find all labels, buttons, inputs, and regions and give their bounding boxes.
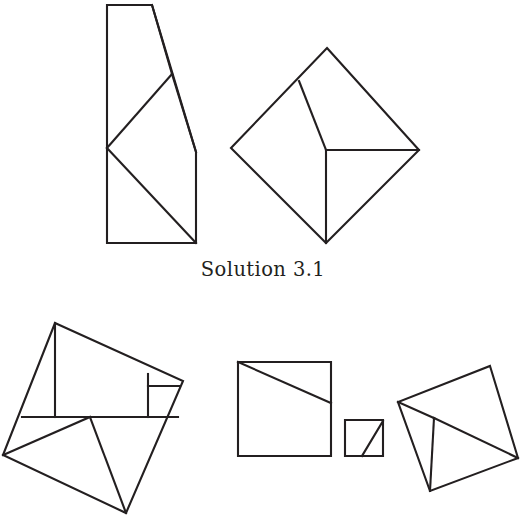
- lower-right-tilted-square: [398, 366, 518, 491]
- lower-left-quadrilateral: [3, 323, 183, 513]
- dissection-figure: Solution 3.1: [0, 0, 526, 532]
- lower-middle-small-square: [345, 420, 383, 456]
- upper-right-diamond: [231, 48, 419, 243]
- lower-middle-large-square-outline: [238, 362, 331, 456]
- figure-caption: Solution 3.1: [0, 258, 526, 281]
- upper-left-polygon-outline: [107, 5, 196, 243]
- upper-left-polygon: [107, 5, 196, 243]
- lower-middle-small-square-outline: [345, 420, 383, 456]
- lower-middle-large-square: [238, 362, 331, 456]
